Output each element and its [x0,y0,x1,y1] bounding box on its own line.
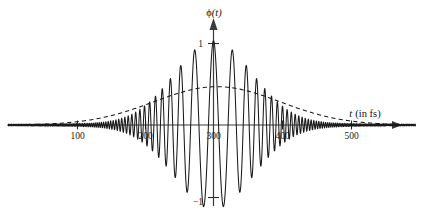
y-tick-label-minus-1: −1 [193,197,203,207]
wave-packet-curve [8,41,416,207]
x-axis-unit: (in fs) [355,108,381,120]
y-tick-label-1: 1 [198,39,203,49]
y-axis-arg: (t) [212,7,222,19]
envelope-curve-dashed [8,87,415,125]
x-axis-symbol: t [349,108,353,119]
x-tick-label-200: 200 [138,131,153,141]
x-tick-label-400: 400 [275,131,290,141]
y-axis-arrow-icon [210,18,218,30]
x-tick-label-300: 300 [206,131,221,141]
x-axis-title: t(in fs) [349,108,381,120]
chart-canvas: 100 200 300 400 500 1 −1 ϕ(t) t(in fs) [0,0,421,212]
x-tick-label-500: 500 [344,131,359,141]
y-axis-title: ϕ(t) [206,7,222,19]
y-axis [210,18,218,206]
x-tick-label-100: 100 [70,131,85,141]
chart-figure: 100 200 300 400 500 1 −1 ϕ(t) t(in fs) [0,0,421,212]
